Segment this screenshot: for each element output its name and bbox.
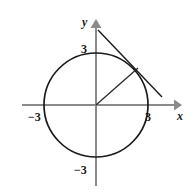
y-tick-label-positive: 3 [81,43,87,55]
x-tick-label-positive: 3 [145,111,151,123]
x-axis-label: x [177,110,183,122]
x-tick-label-negative: −3 [28,111,41,123]
math-figure-circle-tangent: y x 3 −3 3 −3 [0,0,194,194]
y-axis-arrowhead [91,19,102,28]
y-axis-label: y [82,16,87,28]
radius-segment [96,68,138,105]
figure-canvas [0,0,194,194]
y-tick-label-negative: −3 [74,164,87,176]
tangent-segment [98,30,162,97]
